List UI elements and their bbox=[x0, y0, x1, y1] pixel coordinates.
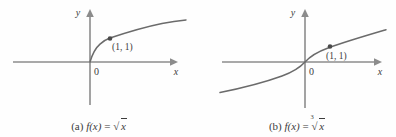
point-marker-1-1 bbox=[328, 44, 333, 49]
plot-cbrt: y x 0 (1, 1) bbox=[198, 0, 396, 137]
caption-panel-b: (b) f(x) = 3 √ x bbox=[198, 118, 396, 133]
curve-cbrt bbox=[220, 30, 386, 93]
x-axis-arrowhead-icon bbox=[374, 58, 382, 66]
caption-panel-a: (a) f(x) = √ x bbox=[0, 118, 198, 133]
caption-function: f(x) bbox=[284, 120, 299, 132]
figure-root: y x 0 (1, 1) (a) f(x) = √ x bbox=[0, 0, 396, 137]
origin-label: 0 bbox=[309, 66, 314, 77]
radical-sign-icon: √ bbox=[311, 120, 317, 132]
origin-label: 0 bbox=[94, 66, 99, 77]
point-label: (1, 1) bbox=[326, 51, 347, 62]
figure-panel-b: y x 0 (1, 1) (b) f(x) = 3 √ x bbox=[198, 0, 396, 137]
caption-function: f(x) bbox=[86, 120, 101, 132]
x-axis-label: x bbox=[377, 66, 383, 77]
y-axis-arrowhead-icon bbox=[301, 9, 309, 17]
radical-index: 3 bbox=[310, 114, 313, 120]
radical-argument: x bbox=[319, 118, 325, 133]
y-axis-label: y bbox=[290, 7, 296, 18]
caption-equals: = bbox=[302, 120, 308, 132]
y-axis-arrowhead-icon bbox=[86, 9, 94, 17]
caption-equals: = bbox=[104, 120, 110, 132]
x-axis-label: x bbox=[173, 66, 179, 77]
plot-sqrt: y x 0 (1, 1) bbox=[0, 0, 198, 137]
radical-sign-icon: √ bbox=[113, 120, 119, 132]
radical-expression: 3 √ x bbox=[311, 118, 325, 133]
caption-tag: (a) bbox=[71, 120, 83, 132]
figure-panel-a: y x 0 (1, 1) (a) f(x) = √ x bbox=[0, 0, 198, 137]
caption-tag: (b) bbox=[269, 120, 282, 132]
radical-expression: √ x bbox=[113, 118, 127, 133]
point-label: (1, 1) bbox=[112, 42, 133, 53]
curve-sqrt bbox=[90, 20, 186, 62]
y-axis-label: y bbox=[75, 7, 81, 18]
radical-argument: x bbox=[121, 118, 127, 133]
x-axis-arrowhead-icon bbox=[170, 58, 178, 66]
point-marker-1-1 bbox=[108, 36, 113, 41]
